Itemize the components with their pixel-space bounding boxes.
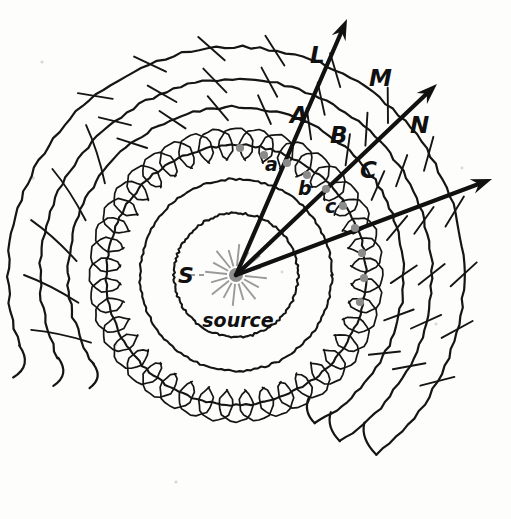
wavelet-center-dot (322, 185, 330, 193)
wavelet-arc (104, 317, 138, 352)
outer-arc-tick (117, 138, 147, 148)
wavelet-center-dot (351, 224, 359, 232)
wavelet-center-dot (356, 298, 364, 306)
wavelet-label-a: a (265, 153, 278, 175)
outer-arc-hook (13, 345, 25, 377)
outer-arc-tick (424, 137, 433, 171)
outer-arc-hook (364, 423, 377, 455)
outer-arc-tick (387, 216, 407, 240)
source-spoke (211, 278, 227, 283)
outer-arc-tick (446, 197, 464, 227)
wavelet-center-dot (358, 249, 366, 257)
wavelet-center-dot (360, 274, 368, 282)
outer-arc-hook (53, 358, 63, 386)
diagram-labels: L M N A B C a b c S source (178, 42, 429, 331)
outer-arc-hook (90, 364, 98, 388)
wavefront-label-C: C (360, 157, 377, 183)
source-spoke (245, 276, 267, 278)
wavelet-label-c: c (325, 195, 337, 217)
outer-arc-tick (160, 111, 186, 128)
source-caption: source (202, 309, 274, 331)
outer-arc-hook (330, 412, 340, 441)
wavelet-center-dot (236, 144, 244, 152)
ray-label-L: L (310, 42, 325, 68)
wavelet-arc (89, 258, 120, 292)
wavelet-center-dot (283, 159, 291, 167)
outer-arc-tick (396, 155, 407, 186)
outer-wavefront-arcs (7, 36, 477, 455)
ray-arrows (236, 19, 492, 275)
source-starburst (190, 244, 267, 306)
source-symbol-label: S (178, 263, 194, 288)
outer-arc-connector (31, 330, 91, 343)
source-spoke (233, 284, 235, 306)
outer-arc-connector (52, 169, 85, 220)
outer-arc-tick (420, 377, 454, 386)
ray-label-N: N (410, 112, 429, 138)
figure-root: L M N A B C a b c S source (0, 0, 511, 519)
source-spoke (229, 250, 234, 266)
wavelet-label-b: b (298, 177, 312, 199)
outer-arc-connector (86, 125, 105, 183)
wavefront-label-B: B (330, 122, 348, 148)
outer-arc-connector (31, 220, 76, 261)
outer-arc-tick (442, 321, 473, 338)
source-spoke (205, 272, 227, 274)
huygens-wavefront-diagram: L M N A B C a b c S source (0, 0, 511, 519)
outer-arc-tick (365, 113, 367, 146)
wavelet-arc (198, 129, 232, 163)
outer-arc-tick (99, 117, 131, 125)
outer-arc-tick (414, 207, 433, 234)
wavelet-center-dot (339, 202, 347, 210)
wavefront-label-A: A (288, 102, 308, 128)
ray-label-M: M (369, 65, 392, 91)
wavelet-arc (96, 218, 129, 252)
source-spoke (237, 244, 239, 266)
source-spoke (239, 284, 244, 300)
